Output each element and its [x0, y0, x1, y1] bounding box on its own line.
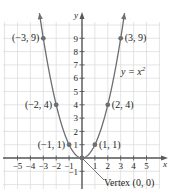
data-point: [118, 36, 123, 41]
equation-exponent: 2: [142, 65, 146, 73]
y-tick-label: 7: [74, 60, 79, 70]
x-tick-label: −4: [26, 161, 36, 171]
x-tick-label: 4: [131, 161, 136, 171]
point-label: (−2, 4): [25, 99, 52, 111]
parabola-chart: −5−4−3−2−112345−1123456789(−3, 9)(−2, 4)…: [0, 0, 170, 192]
x-tick-label: −5: [13, 161, 23, 171]
point-label: (−3, 9): [12, 32, 39, 44]
y-tick-label: 8: [74, 47, 79, 57]
y-tick-label: 6: [74, 73, 79, 83]
equation-label: y = x2: [120, 65, 146, 77]
x-tick-label: 2: [106, 161, 111, 171]
y-tick-label: 4: [74, 100, 79, 110]
data-point: [67, 142, 72, 147]
labels: −5−4−3−2−112345−1123456789(−3, 9)(−2, 4)…: [12, 32, 154, 189]
point-label: (1, 1): [99, 139, 121, 151]
y-axis-label: y: [73, 10, 78, 20]
data-point: [93, 142, 98, 147]
x-tick-label: −3: [39, 161, 49, 171]
y-tick-label: 1: [74, 140, 79, 150]
y-tick-label: 5: [74, 87, 79, 97]
x-tick-label: 5: [144, 161, 149, 171]
data-point: [54, 102, 59, 107]
y-tick-label: 3: [74, 113, 79, 123]
x-tick-label: −2: [51, 161, 61, 171]
y-tick-label: 2: [74, 127, 79, 137]
equation-text: y = x: [120, 66, 142, 77]
data-point: [41, 36, 46, 41]
y-tick-label: 9: [74, 34, 79, 44]
vertex-label: Vertex (0, 0): [104, 177, 154, 189]
y-tick-label: −1: [68, 167, 78, 177]
point-label: (3, 9): [125, 32, 147, 44]
point-label: (−1, 1): [38, 139, 65, 151]
point-label: (2, 4): [112, 99, 134, 111]
x-axis-label: x: [162, 159, 167, 169]
x-tick-label: 3: [118, 161, 123, 171]
data-point: [105, 102, 110, 107]
